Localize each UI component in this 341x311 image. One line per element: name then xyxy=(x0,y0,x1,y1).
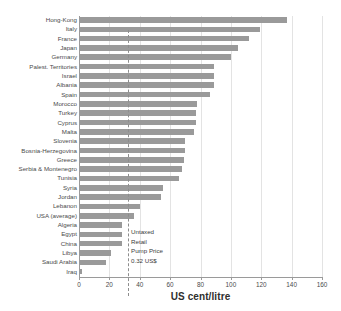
bar-row xyxy=(79,202,322,210)
x-tick-mark xyxy=(231,277,232,280)
bar xyxy=(79,120,196,126)
y-axis-tick-label: Algeria xyxy=(0,221,80,229)
y-axis-tick-label: Libya xyxy=(0,249,80,257)
bar-row xyxy=(79,156,322,164)
bar xyxy=(79,176,179,182)
bar-row xyxy=(79,212,322,220)
bar-row xyxy=(79,53,322,61)
x-tick-mark xyxy=(292,277,293,280)
y-axis-tick-label: Slovenia xyxy=(0,137,80,145)
annotation-line: Pump Price xyxy=(131,246,163,256)
bar-row xyxy=(79,184,322,192)
bar xyxy=(79,129,194,135)
y-axis-tick-label: Palest. Territories xyxy=(0,63,80,71)
x-tick-mark xyxy=(170,277,171,280)
bar xyxy=(79,27,260,33)
x-tick-mark xyxy=(79,277,80,280)
bar-row xyxy=(79,137,322,145)
y-axis-tick-label: Cyprus xyxy=(0,119,80,127)
bar xyxy=(79,241,122,247)
bar-row xyxy=(79,72,322,80)
bar-row xyxy=(79,16,322,24)
x-tick-mark xyxy=(140,277,141,280)
bar-row xyxy=(79,165,322,173)
bar xyxy=(79,166,182,172)
bar xyxy=(79,82,214,88)
bar-row xyxy=(79,109,322,117)
bar-row xyxy=(79,193,322,201)
annotation-line: Untaxed xyxy=(131,227,163,237)
x-tick-mark xyxy=(261,277,262,280)
x-axis-title: US cent/litre xyxy=(0,291,341,302)
bar xyxy=(79,148,185,154)
x-tick-mark xyxy=(109,277,110,280)
bar-row xyxy=(79,268,322,276)
bar-row xyxy=(79,221,322,229)
y-axis-tick-label: Saudi Arabia xyxy=(0,258,80,266)
annotation-line: 0.32 US$ xyxy=(131,256,163,266)
y-axis-tick-label: Egypt xyxy=(0,230,80,238)
bar-chart: Hong-KongItalyFranceJapanGermanyPalest. … xyxy=(0,0,341,311)
bar xyxy=(79,260,106,266)
x-axis-tick-label: 160 xyxy=(302,281,341,288)
bar xyxy=(79,36,249,42)
bar-row xyxy=(79,63,322,71)
bar-row xyxy=(79,100,322,108)
y-axis-tick-label: Germany xyxy=(0,53,80,61)
y-axis-tick-label: Greece xyxy=(0,156,80,164)
y-axis-tick-label: Morocco xyxy=(0,100,80,108)
y-axis-tick-label: Israel xyxy=(0,72,80,80)
bar xyxy=(79,250,111,256)
bar-row xyxy=(79,128,322,136)
y-axis-tick-label: USA (average) xyxy=(0,212,80,220)
bar xyxy=(79,101,197,107)
bar-row xyxy=(79,91,322,99)
y-axis-tick-label: Bosnia-Herzegovina xyxy=(0,147,80,155)
bar-row xyxy=(79,147,322,155)
bar xyxy=(79,64,214,70)
bar-row xyxy=(79,230,322,238)
y-axis-tick-label: Serbia & Montenegro xyxy=(0,165,80,173)
bar-row xyxy=(79,35,322,43)
y-axis-tick-label: Italy xyxy=(0,25,80,33)
y-axis-tick-label: Hong-Kong xyxy=(0,16,80,24)
y-axis-tick-label: Iraq xyxy=(0,268,80,276)
y-axis-tick-label: France xyxy=(0,35,80,43)
y-axis-tick-label: Malta xyxy=(0,128,80,136)
bar xyxy=(79,232,122,238)
bar xyxy=(79,92,210,98)
bar xyxy=(79,138,185,144)
bar xyxy=(79,45,238,51)
bar-row xyxy=(79,249,322,257)
bar xyxy=(79,17,287,23)
x-tick-mark xyxy=(201,277,202,280)
bar xyxy=(79,204,140,210)
bar-row xyxy=(79,44,322,52)
bar-row xyxy=(79,119,322,127)
y-axis-tick-label: Tunisia xyxy=(0,174,80,182)
y-axis-tick-label: China xyxy=(0,240,80,248)
bar xyxy=(79,110,196,116)
y-axis-tick-label: Jordan xyxy=(0,193,80,201)
bar xyxy=(79,213,134,219)
gridline xyxy=(322,16,323,277)
y-axis-tick-label: Lebanon xyxy=(0,202,80,210)
bar-row xyxy=(79,258,322,266)
bar xyxy=(79,185,163,191)
y-axis-tick-label: Japan xyxy=(0,44,80,52)
bar xyxy=(79,73,214,79)
bar xyxy=(79,54,231,60)
y-axis-tick-label: Syria xyxy=(0,184,80,192)
y-axis-tick-label: Albania xyxy=(0,81,80,89)
bar-row xyxy=(79,25,322,33)
bar-row xyxy=(79,81,322,89)
bar xyxy=(79,194,161,200)
y-axis-tick-label: Spain xyxy=(0,91,80,99)
bar-row xyxy=(79,174,322,182)
bar xyxy=(79,222,122,228)
bar-row xyxy=(79,240,322,248)
annotation-line: Retail xyxy=(131,237,163,247)
x-tick-mark xyxy=(322,277,323,280)
reference-line-annotation: UntaxedRetailPump Price0.32 US$ xyxy=(131,227,163,265)
bar xyxy=(79,157,184,163)
